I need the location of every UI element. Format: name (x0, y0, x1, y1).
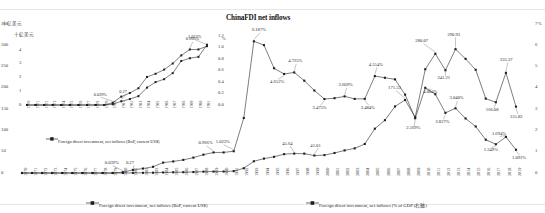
main-data-label-241.21: 241.21 (437, 76, 450, 81)
main-data-label-280.07: 280.07 (415, 39, 428, 44)
inset-marker (69, 104, 71, 106)
inset-marker (120, 100, 122, 102)
main-legend-label-0: Foreign direct investment, net inflows (… (99, 203, 207, 208)
inset-marker (95, 104, 97, 106)
main-data-label-155.82: 155.82 (510, 115, 523, 120)
main-data-label-1.349%: 1.349% (484, 148, 498, 153)
inset-series-line-1 (27, 46, 207, 105)
main-data-label-4.725%: 4.725% (288, 59, 302, 64)
main-data-label-1.694%: 1.694% (492, 132, 506, 137)
main-data-label-41.01: 41.01 (310, 144, 320, 149)
main-data-label-6.187%: 6.187% (252, 28, 266, 33)
main-data-label-4.004%: 4.004% (423, 90, 437, 95)
inset-marker (180, 54, 182, 56)
inset-marker (163, 78, 165, 80)
inset-marker (137, 95, 139, 97)
inset-marker (206, 45, 208, 47)
inset-marker (112, 102, 114, 104)
main-data-label-2.569%: 2.569% (406, 126, 420, 131)
inset-marker (86, 104, 88, 106)
inset-marker (52, 104, 54, 106)
inset-series-line-0 (27, 45, 207, 105)
inset-data-label-0.27: 0.27 (119, 90, 127, 94)
inset-marker (172, 62, 174, 64)
inset-label-leader (190, 42, 193, 48)
inset-marker (180, 60, 182, 62)
inset-marker (155, 73, 157, 75)
inset-plot-area (0, 0, 545, 213)
main-data-label-3.609%: 3.609% (339, 83, 353, 88)
inset-label-leader (101, 97, 113, 101)
inset-marker (155, 81, 157, 83)
main-data-label-235.37: 235.37 (500, 58, 513, 63)
inset-marker (137, 87, 139, 89)
main-data-label-1.023%: 1.023% (216, 140, 230, 145)
main-data-label-0.966%: 0.966% (199, 141, 213, 146)
inset-marker (189, 57, 191, 59)
main-data-label-166.08: 166.08 (486, 108, 499, 113)
inset-marker (146, 87, 148, 89)
inset-legend: Foreign direct investment, net inflows (… (46, 130, 160, 146)
main-data-label-171.53: 171.53 (388, 86, 401, 91)
main-data-label-290.93: 290.93 (448, 33, 461, 38)
inset-marker (35, 104, 37, 106)
inset-marker (197, 56, 199, 58)
main-legend-item-1: Foreign direct investment, net inflows (… (306, 194, 427, 210)
inset-marker (77, 104, 79, 106)
main-data-label-3.475%: 3.475% (312, 106, 326, 111)
main-legend-label-1: Foreign direct investment, net inflows (… (319, 203, 427, 208)
inset-marker (172, 72, 174, 74)
main-data-label-3.484%: 3.484% (361, 106, 375, 111)
inset-marker (26, 104, 28, 106)
inset-marker (189, 48, 191, 50)
inset-marker (120, 96, 122, 98)
main-data-label-3.040%: 3.040% (450, 96, 464, 101)
inset-marker (43, 104, 45, 106)
inset-marker (103, 104, 105, 106)
legend-marker-series0-icon (86, 200, 99, 206)
main-data-label-0.27: 0.27 (126, 161, 134, 166)
main-data-label-2.827%: 2.827% (435, 120, 449, 125)
inset-marker (129, 98, 131, 100)
main-data-label-1.091%: 1.091% (512, 156, 526, 161)
inset-legend-marker-icon (46, 136, 58, 142)
legend-marker-series1-icon (306, 200, 319, 206)
inset-marker (129, 92, 131, 94)
inset-data-label-0.039%: 0.039% (94, 93, 107, 97)
main-data-label-4.554%: 4.554% (369, 63, 383, 68)
inset-data-label-1.023%: 1.023% (188, 35, 201, 39)
inset-marker (197, 48, 199, 50)
main-data-label-0.039%: 0.039% (105, 161, 119, 166)
main-data-label-45.64: 45.64 (282, 142, 292, 147)
inset-marker (146, 76, 148, 78)
inset-marker (60, 104, 62, 106)
inset-marker (163, 69, 165, 71)
main-data-label-4.652%: 4.652% (270, 80, 284, 85)
chart-canvas: ChinaFDI net inflows 十亿美元 % 十亿美元 % 05010… (0, 0, 545, 213)
inset-legend-label: Foreign direct investment, net inflows (… (58, 139, 160, 144)
main-legend-item-0: Foreign direct investment, net inflows (… (86, 194, 207, 210)
